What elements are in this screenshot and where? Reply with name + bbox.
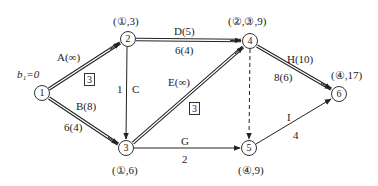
node-4: 4 (242, 33, 258, 49)
edge-d-label: D(5) (174, 25, 195, 37)
node-1: 1 (34, 85, 50, 101)
edge-e-label: E(∞) (168, 76, 190, 88)
node-4-mark: (②,③,9) (228, 15, 266, 27)
edge-h-flow: 8(6) (274, 71, 292, 83)
node-2: 2 (120, 31, 136, 47)
edge-c-flow: 1 (117, 83, 123, 95)
edge-a-label: A(∞) (57, 51, 80, 63)
edge-c-label: C (132, 83, 139, 95)
node-5-mark: (④,9) (238, 164, 264, 176)
network-diagram: 1 2 3 4 5 6 b₁=0 (①,3) (①,6) (②,③,9) (④,… (0, 0, 378, 186)
node-2-mark: (①,3) (113, 15, 139, 27)
node-5: 5 (241, 140, 257, 156)
node-3: 3 (118, 140, 134, 156)
edge-i-label: I (287, 111, 291, 123)
edge-b-label: B(8) (76, 100, 96, 112)
edge-b-flow: 6(4) (64, 121, 82, 133)
edge-d (136, 40, 241, 41)
edge-a-box: 3 (84, 73, 95, 86)
edge-g-flow: 2 (182, 153, 188, 165)
edge-g-label: G (181, 135, 189, 147)
edge-h-label: H(10) (287, 53, 313, 65)
node-6: 6 (331, 86, 347, 102)
edge-e (133, 47, 243, 143)
edge-i-flow: 4 (293, 129, 299, 141)
node-3-mark: (①,6) (112, 164, 138, 176)
edge-c (126, 47, 127, 139)
node-6-mark: (④,17) (331, 69, 362, 81)
edge-e-box: 3 (189, 102, 200, 115)
edge-dummy (249, 49, 250, 139)
node-1-mark: b₁=0 (17, 68, 39, 80)
edge-d-flow: 6(4) (175, 44, 193, 56)
